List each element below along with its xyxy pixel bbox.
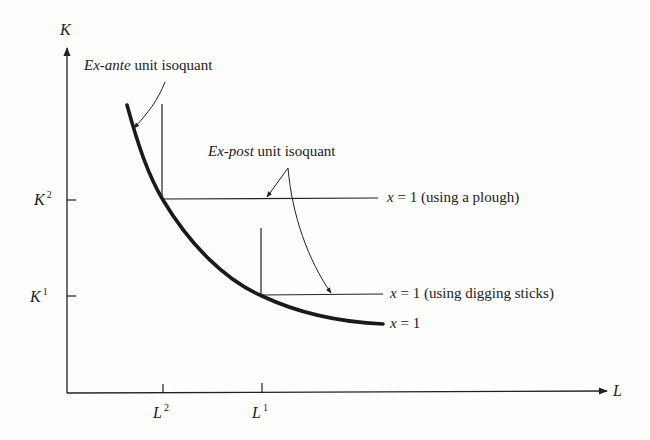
tick-label-l2: L2: [153, 405, 169, 421]
x-axis-label: L: [613, 383, 622, 399]
x-axis: [67, 391, 607, 393]
ex-post-arrow-plough: [267, 168, 288, 197]
smooth-curve-label: x = 1: [390, 316, 420, 331]
ex-ante-isoquant-curve: [127, 105, 383, 324]
tick-label-l1: L1: [252, 405, 268, 421]
ex-ante-arrow: [134, 82, 165, 128]
ex-ante-annotation: Ex-ante unit isoquant: [84, 58, 212, 73]
digging-sticks-isoquant: [261, 228, 383, 295]
y-axis-label: K: [60, 22, 71, 38]
tick-label-k1: K1: [30, 289, 48, 305]
plough-curve-label: x = 1 (using a plough): [387, 190, 519, 205]
digging-sticks-curve-label: x = 1 (using digging sticks): [390, 286, 554, 301]
ex-post-annotation: Ex-post unit isoquant: [208, 144, 336, 159]
tick-label-k2: K2: [34, 192, 52, 208]
ex-post-arrow-sticks: [288, 168, 331, 293]
